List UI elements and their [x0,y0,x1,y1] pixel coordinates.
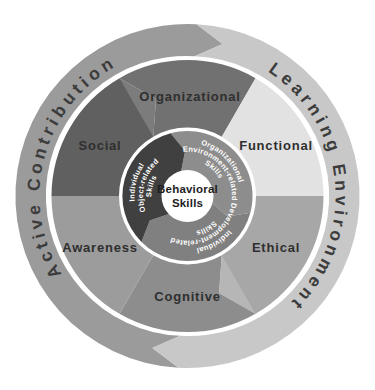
center-label-line1: Behavioral [157,183,218,195]
skills-diagram-svg: Behavioral Skills Organizational Functio… [0,0,375,390]
skills-diagram: Behavioral Skills Organizational Functio… [0,0,375,390]
label-awareness: Awareness [62,240,138,255]
center-label-line2: Skills [172,197,203,209]
label-organizational: Organizational [139,89,241,104]
label-functional: Functional [239,138,313,153]
label-social: Social [78,138,121,153]
label-cognitive: Cognitive [154,289,220,304]
label-ethical: Ethical [252,240,300,255]
